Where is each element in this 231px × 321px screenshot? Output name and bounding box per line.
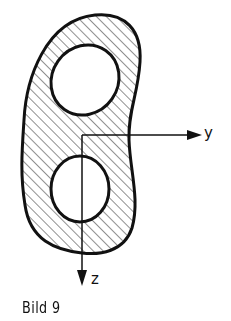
figure-caption: Bild 9 [22,299,61,317]
y-axis-label: y [204,124,213,142]
y-axis-arrowhead [187,130,202,140]
z-axis-label: z [91,270,99,288]
lower-hole [51,156,109,222]
cross-section [22,15,140,254]
diagram-canvas [0,0,231,321]
z-axis-arrowhead [77,270,87,286]
